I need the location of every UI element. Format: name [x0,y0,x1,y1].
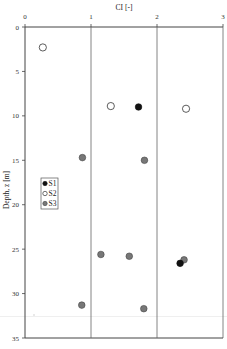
data-point-s2 [182,105,189,112]
data-point-s1 [177,260,184,267]
y-tick-label: 25 [12,246,20,254]
scan-artifact-dot [33,314,35,316]
legend-label-s1: S1 [49,179,57,188]
x-tick-label: 2 [155,13,159,21]
x-axis-title: CI [-] [116,3,133,12]
y-tick-label: 5 [16,68,20,76]
y-tick-label: 0 [16,24,20,32]
y-tick-label: 10 [12,112,20,120]
y-tick-label: 35 [12,335,20,343]
y-tick-label: 20 [12,201,20,209]
legend-marker-s2 [43,191,47,195]
legend-label-s3: S3 [49,199,57,208]
y-axis-ticks: 05101520253035 [12,24,25,343]
x-axis-ticks: 0123 [23,13,225,27]
scatter-chart: 0123 05101520253035 CI [-] Depth, z [m] … [0,0,227,349]
data-point-s3 [141,305,148,312]
vertical-gridlines [91,27,157,338]
data-points [39,44,189,312]
data-point-s3 [79,154,86,161]
data-point-s2 [39,44,46,51]
data-point-s3 [98,251,105,258]
legend-marker-s1 [43,181,47,185]
x-tick-label: 1 [89,13,93,21]
x-tick-label: 3 [221,13,225,21]
x-tick-label: 0 [23,13,27,21]
data-point-s3 [126,253,133,260]
legend-marker-s3 [43,201,47,205]
y-axis-title: Depth, z [m] [2,171,11,209]
data-point-s3 [78,302,85,309]
legend: S1 S2 S3 [41,178,58,209]
legend-label-s2: S2 [49,189,57,198]
data-point-s3 [141,157,148,164]
y-tick-label: 30 [12,290,20,298]
y-tick-label: 15 [12,157,20,165]
data-point-s1 [135,104,142,111]
data-point-s2 [107,102,114,109]
